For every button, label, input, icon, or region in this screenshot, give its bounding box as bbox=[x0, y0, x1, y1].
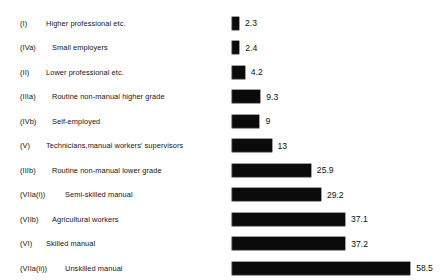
chart-row: (V)Technicians,manual workers' superviso… bbox=[0, 134, 446, 159]
category-label: (VIIb)Agricultural workers bbox=[20, 207, 119, 232]
chart-row: (VIIa(i))Semi-skilled manual29.2 bbox=[0, 183, 446, 208]
chart-row: (VI)Skilled manual37.2 bbox=[0, 232, 446, 257]
bar bbox=[232, 115, 259, 128]
bar-value-label: 9.3 bbox=[266, 92, 278, 102]
category-label: (IVa)Small employers bbox=[20, 36, 108, 61]
bar-value-label: 29.2 bbox=[327, 190, 344, 200]
bar bbox=[232, 262, 410, 275]
category-description: Unskilled manual bbox=[65, 264, 123, 273]
bar bbox=[232, 41, 239, 54]
bar bbox=[232, 213, 345, 226]
bar-value-label: 13 bbox=[278, 141, 288, 151]
bar bbox=[232, 90, 260, 103]
bar-group: 37.2 bbox=[232, 232, 368, 257]
bar-group: 9 bbox=[232, 109, 270, 134]
bar bbox=[232, 164, 311, 177]
bar bbox=[232, 139, 272, 152]
chart-row: (VIIb)Agricultural workers37.1 bbox=[0, 207, 446, 232]
chart-row: (IVb)Self-employed9 bbox=[0, 109, 446, 134]
category-label: (VIIa(i))Semi-skilled manual bbox=[20, 183, 133, 208]
bar-value-label: 58.5 bbox=[416, 263, 433, 273]
bar-value-label: 25.9 bbox=[317, 165, 334, 175]
bar-value-label: 37.1 bbox=[351, 214, 368, 224]
chart-row: (IIIa)Routine non-manual higher grade9.3 bbox=[0, 85, 446, 110]
category-code: (II) bbox=[20, 68, 46, 77]
category-code: (I) bbox=[20, 19, 46, 28]
bar-group: 2.4 bbox=[232, 36, 257, 61]
category-description: Self-employed bbox=[52, 117, 100, 126]
category-code: (VI) bbox=[20, 239, 46, 248]
category-code: (IVa) bbox=[20, 43, 52, 52]
category-code: (IVb) bbox=[20, 117, 52, 126]
bar-group: 37.1 bbox=[232, 207, 368, 232]
category-description: Small employers bbox=[52, 43, 108, 52]
category-code: (VIIa(i)) bbox=[20, 190, 65, 199]
category-label: (VIIa(ii))Unskilled manual bbox=[20, 256, 123, 280]
bar bbox=[232, 17, 239, 30]
category-description: Lower professional etc. bbox=[46, 68, 124, 77]
bar-group: 2.3 bbox=[232, 11, 257, 36]
bar-value-label: 2.3 bbox=[245, 18, 257, 28]
category-description: Higher professional etc. bbox=[46, 19, 126, 28]
category-code: (IIIa) bbox=[20, 92, 52, 101]
category-code: (VIIa(ii)) bbox=[20, 264, 65, 273]
category-description: Skilled manual bbox=[46, 239, 95, 248]
bar-group: 58.5 bbox=[232, 256, 433, 280]
category-code: (IIIb) bbox=[20, 166, 52, 175]
category-label: (I)Higher professional etc. bbox=[20, 11, 126, 36]
chart-row: (IIIb)Routine non-manual lower grade25.9 bbox=[0, 158, 446, 183]
category-description: Routine non-manual lower grade bbox=[52, 166, 162, 175]
bar-value-label: 9 bbox=[265, 116, 270, 126]
bar-group: 25.9 bbox=[232, 158, 334, 183]
chart-row: (VIIa(ii))Unskilled manual58.5 bbox=[0, 256, 446, 280]
bar-group: 13 bbox=[232, 134, 287, 159]
category-label: (VI)Skilled manual bbox=[20, 232, 95, 257]
category-label: (II)Lower professional etc. bbox=[20, 60, 124, 85]
bar-group: 4.2 bbox=[232, 60, 263, 85]
bar bbox=[232, 188, 321, 201]
category-description: Technicians,manual workers' supervisors bbox=[46, 141, 183, 150]
category-label: (IIIa)Routine non-manual higher grade bbox=[20, 85, 165, 110]
bar-group: 29.2 bbox=[232, 183, 344, 208]
category-label: (V)Technicians,manual workers' superviso… bbox=[20, 134, 183, 159]
bar-value-label: 2.4 bbox=[245, 43, 257, 53]
bar bbox=[232, 237, 345, 250]
bar-value-label: 4.2 bbox=[251, 67, 263, 77]
chart-row: (II)Lower professional etc.4.2 bbox=[0, 60, 446, 85]
bar-group: 9.3 bbox=[232, 85, 278, 110]
category-description: Semi-skilled manual bbox=[65, 190, 133, 199]
bar bbox=[232, 66, 245, 79]
category-code: (V) bbox=[20, 141, 46, 150]
chart-row: (IVa)Small employers2.4 bbox=[0, 36, 446, 61]
category-description: Routine non-manual higher grade bbox=[52, 92, 165, 101]
category-code: (VIIb) bbox=[20, 215, 52, 224]
bar-value-label: 37.2 bbox=[351, 239, 368, 249]
chart-row: (I)Higher professional etc.2.3 bbox=[0, 11, 446, 36]
category-description: Agricultural workers bbox=[52, 215, 119, 224]
category-label: (IIIb)Routine non-manual lower grade bbox=[20, 158, 162, 183]
category-label: (IVb)Self-employed bbox=[20, 109, 100, 134]
